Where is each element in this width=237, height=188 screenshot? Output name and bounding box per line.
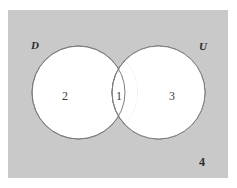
venn-diagram-canvas: D U 2 1 3 4 [0, 0, 237, 188]
region-count-outside-universe: 4 [192, 156, 212, 168]
region-count-left-only: 2 [55, 90, 75, 102]
set-label-d: D [31, 40, 39, 51]
region-count-intersection: 1 [109, 90, 129, 102]
region-count-right-only: 3 [162, 90, 182, 102]
set-label-u: U [199, 41, 207, 52]
